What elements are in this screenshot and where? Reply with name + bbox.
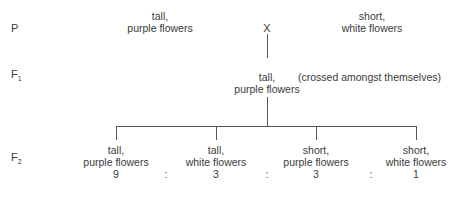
ratio-separator-1: : <box>162 168 170 180</box>
f2-offspring-2-line2: white flowers <box>176 156 256 168</box>
f2-offspring-2-ratio: 3 <box>176 168 256 180</box>
drop-1 <box>116 126 117 140</box>
f1-note: (crossed amongst themselves) <box>298 71 441 83</box>
f2-offspring-1-line2: purple flowers <box>76 156 156 168</box>
f2-offspring-4-ratio: 1 <box>376 168 452 180</box>
drop-2 <box>216 126 217 140</box>
f2-offspring-4: short, white flowers 1 <box>376 144 452 180</box>
f2-offspring-1: tall, purple flowers 9 <box>76 144 156 180</box>
f2-offspring-4-line1: short, <box>376 144 452 156</box>
parent-right-line1: short, <box>332 10 412 22</box>
f2-branch-bar <box>116 126 417 127</box>
generation-label-f2: F2 <box>11 151 22 165</box>
f1-line1: tall, <box>227 71 307 83</box>
drop-4 <box>416 126 417 140</box>
generation-label-p: P <box>11 22 18 34</box>
parent-right: short, white flowers <box>332 10 412 34</box>
cross-symbol: X <box>257 22 277 34</box>
f2-offspring-2-line1: tall, <box>176 144 256 156</box>
drop-3 <box>316 126 317 140</box>
connector-f1-f2 <box>267 97 268 127</box>
parent-left-line2: purple flowers <box>120 22 200 34</box>
ratio-separator-2: : <box>263 168 271 180</box>
connector-parents-f1 <box>267 34 268 58</box>
f2-offspring-3-line1: short, <box>276 144 356 156</box>
f2-offspring-1-line1: tall, <box>76 144 156 156</box>
f2-offspring-2: tall, white flowers 3 <box>176 144 256 180</box>
f2-offspring-3-ratio: 3 <box>276 168 356 180</box>
f2-offspring-3-line2: purple flowers <box>276 156 356 168</box>
f1-offspring: tall, purple flowers <box>227 71 307 95</box>
f2-offspring-1-ratio: 9 <box>76 168 156 180</box>
parent-left-line1: tall, <box>120 10 200 22</box>
ratio-separator-3: : <box>367 168 375 180</box>
generation-label-f1: F1 <box>11 68 22 82</box>
parent-left: tall, purple flowers <box>120 10 200 34</box>
f2-offspring-3: short, purple flowers 3 <box>276 144 356 180</box>
f1-line2: purple flowers <box>227 83 307 95</box>
f2-offspring-4-line2: white flowers <box>376 156 452 168</box>
parent-right-line2: white flowers <box>332 22 412 34</box>
